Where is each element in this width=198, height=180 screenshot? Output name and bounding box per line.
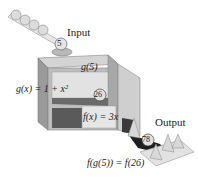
machine-top <box>38 55 118 68</box>
output-ball-value: 78 <box>142 135 150 144</box>
g-definition-label: g(x) = 1 + x² <box>16 83 68 94</box>
output-label: Output <box>155 116 186 128</box>
composition-label: f(g(5)) = f(26) <box>87 157 144 168</box>
input-label: Input <box>67 26 90 38</box>
intermediate-ball-value: 26 <box>94 90 102 99</box>
output-cone <box>172 134 184 148</box>
input-ball-value: 5 <box>57 38 62 48</box>
g-of-5-label: g(5) <box>81 61 98 72</box>
queued-input-balls <box>11 10 48 35</box>
machine-left-side <box>38 58 48 130</box>
machine-inner-shadow <box>52 108 82 128</box>
f-definition-label: f(x) = 3x <box>83 111 118 122</box>
